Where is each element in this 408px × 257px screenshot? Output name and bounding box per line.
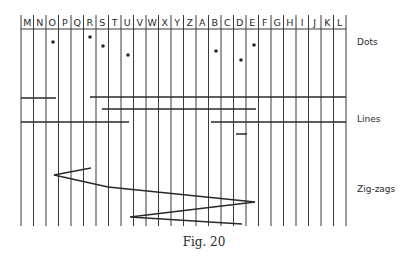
column-label: F xyxy=(262,17,267,28)
figure-canvas: MNOPQRSTUVWXYZABCDEFGHIJKL xyxy=(0,0,408,257)
column-label: Z xyxy=(186,17,193,28)
column-label: H xyxy=(286,17,293,28)
dots-label: Dots xyxy=(357,37,378,47)
column-label: B xyxy=(211,17,218,28)
column-label: Q xyxy=(74,17,81,28)
column-label: R xyxy=(86,17,93,28)
column-label: M xyxy=(23,17,31,28)
column-label: P xyxy=(62,17,68,28)
column-label: X xyxy=(161,17,168,28)
column-label: V xyxy=(137,17,144,28)
dot xyxy=(252,43,256,47)
zigzag-path xyxy=(54,168,255,224)
dot xyxy=(51,40,55,44)
dot xyxy=(88,35,92,39)
dot xyxy=(126,53,130,57)
column-label: U xyxy=(124,17,131,28)
dot xyxy=(214,49,218,53)
column-label: T xyxy=(111,17,118,28)
figure-caption: Fig. 20 xyxy=(0,235,408,249)
column-label: W xyxy=(148,17,158,28)
column-label: K xyxy=(324,17,331,28)
dot xyxy=(101,44,105,48)
column-label: A xyxy=(199,17,206,28)
column-label: S xyxy=(99,17,105,28)
column-label: N xyxy=(36,17,43,28)
column-label: D xyxy=(236,17,243,28)
lines-label: Lines xyxy=(357,114,380,124)
column-label: J xyxy=(312,17,316,28)
column-label: I xyxy=(301,17,304,28)
column-label: G xyxy=(274,17,281,28)
dots-section xyxy=(51,35,256,62)
column-label: Y xyxy=(173,17,180,28)
zigzags-section xyxy=(54,168,255,224)
column-label: L xyxy=(337,17,343,28)
column-label: C xyxy=(224,17,231,28)
column-label: E xyxy=(249,17,255,28)
column-label: O xyxy=(49,17,56,28)
dot xyxy=(239,58,243,62)
zigzags-label: Zig-zags xyxy=(357,184,395,194)
